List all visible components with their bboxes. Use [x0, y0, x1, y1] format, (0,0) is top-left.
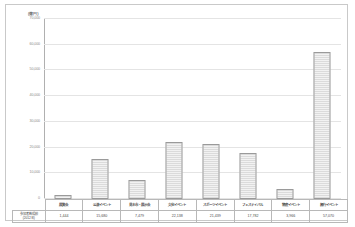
- bar-slot: [44, 19, 81, 199]
- bar-series: [44, 19, 341, 199]
- y-axis-tick-label: 50,000: [8, 68, 40, 72]
- bar[interactable]: [277, 189, 294, 199]
- bar-slot: [230, 19, 267, 199]
- table-value-cell: 57,070: [310, 211, 348, 223]
- table-value-cell: 1,444: [45, 211, 83, 223]
- bar[interactable]: [240, 153, 257, 199]
- y-axis-tick-label: 30,000: [8, 120, 40, 124]
- table-row-categories: 展覧会公演イベント見本市・展示会文化イベントスポーツイベントフェスティバル物産イ…: [13, 200, 348, 211]
- table-category-header: 見本市・展示会: [121, 200, 159, 211]
- bar-slot: [118, 19, 155, 199]
- bar-slot: [267, 19, 304, 199]
- bar-slot: [155, 19, 192, 199]
- table-value-cell: 22,138: [158, 211, 196, 223]
- table-value-cell: 7,479: [121, 211, 159, 223]
- bar-slot: [81, 19, 118, 199]
- table-row-header: 参加者数規模 (2012年): [13, 211, 46, 223]
- table-category-header: 物産イベント: [272, 200, 310, 211]
- row-header-line2: (2012年): [13, 217, 45, 221]
- bar[interactable]: [165, 142, 182, 199]
- bar[interactable]: [203, 144, 220, 199]
- bar-slot: [193, 19, 230, 199]
- table-value-cell: 21,439: [196, 211, 234, 223]
- table-category-header: スポーツイベント: [196, 200, 234, 211]
- table-corner-blank: [13, 200, 46, 211]
- table-value-cell: 17,782: [234, 211, 272, 223]
- table-category-header: 興行イベント: [310, 200, 348, 211]
- y-axis-tick-label: 70,000: [8, 17, 40, 21]
- table-category-header: フェスティバル: [234, 200, 272, 211]
- y-axis-tick-label: 40,000: [8, 94, 40, 98]
- table-value-cell: 15,680: [83, 211, 121, 223]
- table-category-header: 展覧会: [45, 200, 83, 211]
- table-row-values: 参加者数規模 (2012年) 1,44415,6807,47922,13821,…: [13, 211, 348, 223]
- bar[interactable]: [314, 52, 331, 199]
- plot-area: [44, 19, 341, 199]
- table-category-header: 公演イベント: [83, 200, 121, 211]
- bar[interactable]: [91, 159, 108, 199]
- table-category-header: 文化イベント: [158, 200, 196, 211]
- table-value-cell: 3,966: [272, 211, 310, 223]
- bar-slot: [304, 19, 341, 199]
- y-axis-tick-label: 60,000: [8, 43, 40, 47]
- y-axis-tick-label: 10,000: [8, 171, 40, 175]
- bar[interactable]: [128, 180, 145, 199]
- y-axis-tick-label: 20,000: [8, 146, 40, 150]
- chart-frame: (億円) 010,00020,00030,00040,00050,00060,0…: [5, 4, 348, 221]
- data-table: 展覧会公演イベント見本市・展示会文化イベントスポーツイベントフェスティバル物産イ…: [12, 199, 348, 223]
